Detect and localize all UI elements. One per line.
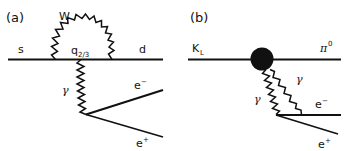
panel-a-label-photon: γ	[62, 84, 69, 97]
panel-a-electron-line	[86, 90, 163, 115]
panel-a: (a) s d W q 2/3 γ	[6, 10, 163, 150]
panel-b-label: (b)	[190, 10, 208, 25]
panel-a-label-loop-quark-base: q	[71, 44, 78, 57]
panel-b-label-kaon-base: K	[192, 42, 200, 55]
panel-b-positron-line	[276, 115, 338, 134]
panel-a-label-loop-quark-subscript: 2/3	[78, 51, 89, 59]
panel-b-label-pion-base: π	[319, 42, 328, 55]
panel-b-label-electron-superscript: −	[322, 97, 328, 105]
panel-b-label-photon-left: γ	[254, 93, 261, 106]
panel-b-label-pion-superscript: 0	[328, 40, 332, 48]
panel-b: (b) K L π 0 γ γ	[188, 10, 341, 151]
panel-b-label-positron: e +	[318, 137, 331, 151]
panel-a-photon-wavy-line	[77, 60, 86, 115]
panel-a-label-positron-base: e	[136, 137, 143, 150]
panel-a-label-electron-superscript: −	[141, 78, 147, 86]
panel-b-label-pion: π 0	[319, 40, 332, 55]
feynman-diagram-canvas: (a) s d W q 2/3 γ	[0, 0, 344, 151]
panel-a-label-positron-superscript: +	[143, 136, 149, 144]
feynman-diagram-figure: (a) s d W q 2/3 γ	[0, 0, 344, 151]
panel-b-label-kaon-subscript: L	[200, 49, 204, 57]
panel-b-label-electron-base: e	[315, 98, 322, 111]
panel-b-label-kaon: K L	[192, 42, 204, 57]
panel-b-label-photon-right: γ	[296, 73, 303, 86]
panel-b-photon-left-wavy-line	[263, 70, 280, 115]
panel-a-label-electron-base: e	[134, 79, 141, 92]
panel-a-label-d-quark: d	[139, 43, 146, 56]
panel-b-label-electron: e −	[315, 97, 328, 111]
panel-a-label-s-quark: s	[18, 43, 24, 56]
panel-a-label-positron: e +	[136, 136, 149, 150]
panel-a-label-loop-quark: q 2/3	[71, 44, 89, 59]
panel-a-label-w-boson: W	[59, 10, 70, 23]
panel-a-label-electron: e −	[134, 78, 147, 92]
panel-b-hadronic-blob	[251, 48, 274, 71]
panel-a-positron-line	[86, 115, 163, 138]
panel-b-label-positron-base: e	[318, 138, 325, 151]
panel-a-label: (a)	[6, 10, 24, 25]
panel-b-label-positron-superscript: +	[325, 137, 331, 145]
